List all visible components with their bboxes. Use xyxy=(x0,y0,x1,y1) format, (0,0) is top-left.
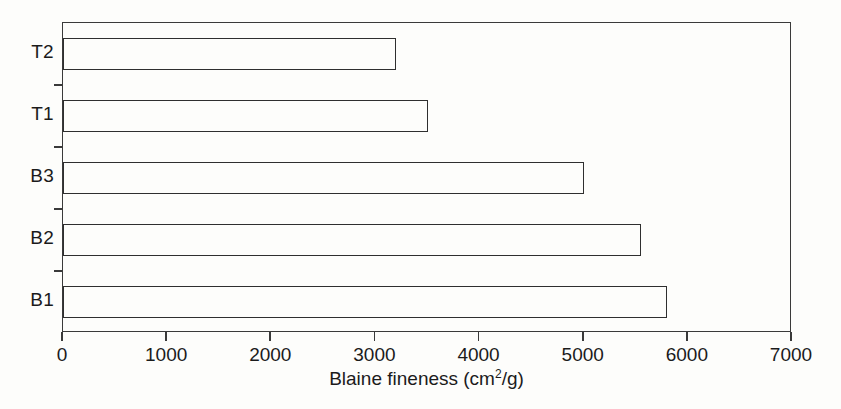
y-axis-label-t1: T1 xyxy=(6,103,54,125)
bar-rect-b2 xyxy=(63,224,641,256)
bar-rect-b1 xyxy=(63,286,667,318)
x-axis-tick-7000 xyxy=(790,332,792,341)
x-axis-tick-label-6000: 6000 xyxy=(666,344,708,366)
x-axis-tick-1000 xyxy=(165,332,167,341)
x-axis-tick-0 xyxy=(61,332,63,341)
y-axis-tick-2 xyxy=(54,146,62,148)
x-axis-tick-label-4000: 4000 xyxy=(457,344,499,366)
y-axis-tick-3 xyxy=(54,208,62,210)
x-axis-tick-5000 xyxy=(582,332,584,341)
x-axis-title-after: /g) xyxy=(502,368,524,389)
y-axis-label-b1: B1 xyxy=(6,289,54,311)
bar-rect-t2 xyxy=(63,38,396,70)
y-axis-label-b3: B3 xyxy=(6,165,54,187)
y-axis-tick-4 xyxy=(54,270,62,272)
y-axis-label-b2: B2 xyxy=(6,227,54,249)
x-axis-tick-label-2000: 2000 xyxy=(249,344,291,366)
x-axis: 01000200030004000500060007000 xyxy=(62,332,791,402)
x-axis-tick-label-1000: 1000 xyxy=(145,344,187,366)
x-axis-tick-6000 xyxy=(686,332,688,341)
x-axis-tick-label-0: 0 xyxy=(57,344,68,366)
y-axis-category-labels: T2T1B3B2B1 xyxy=(0,22,54,332)
x-axis-tick-label-5000: 5000 xyxy=(562,344,604,366)
bar-rect-b3 xyxy=(63,162,584,194)
y-axis-label-t2: T2 xyxy=(6,41,54,63)
x-axis-tick-label-7000: 7000 xyxy=(770,344,812,366)
x-axis-title-superscript: 2 xyxy=(495,367,502,381)
chart-page: T2T1B3B2B1 01000200030004000500060007000… xyxy=(0,0,841,409)
x-axis-tick-2000 xyxy=(269,332,271,341)
x-axis-tick-3000 xyxy=(374,332,376,341)
bar-rect-t1 xyxy=(63,100,428,132)
x-axis-tick-4000 xyxy=(478,332,480,341)
x-axis-title: Blaine fineness (cm2/g) xyxy=(62,368,791,390)
plot-area xyxy=(62,22,791,332)
x-axis-tick-label-3000: 3000 xyxy=(353,344,395,366)
x-axis-title-before: Blaine fineness (cm xyxy=(329,368,495,389)
y-axis-tick-1 xyxy=(54,84,62,86)
